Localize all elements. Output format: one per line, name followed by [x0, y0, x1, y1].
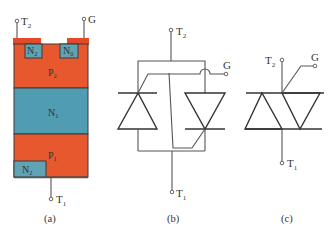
- t2-terminal: [15, 19, 19, 23]
- g-label: G: [88, 13, 96, 25]
- panel-b-equivalent: T2 G T1 (b): [118, 25, 231, 225]
- reverse-triangle: [282, 93, 320, 129]
- right-thyristor-triangle: [185, 93, 225, 129]
- gate-cross-wire: [169, 73, 205, 148]
- forward-triangle: [245, 93, 282, 129]
- t1-terminal: [280, 161, 284, 165]
- gate-wire: [138, 69, 224, 93]
- panel-c-symbol: T2 G T1 (c): [245, 51, 324, 225]
- caption-b: (b): [167, 213, 180, 225]
- panel-a-structure: T2 G N2 N0 P2 N1 P1 N2 T1 (a): [13, 13, 96, 225]
- caption-c: (c): [281, 213, 293, 225]
- t2-label: T2: [265, 54, 276, 69]
- caption-a: (a): [44, 213, 56, 225]
- t2-label: T2: [176, 25, 187, 40]
- g-label: G: [311, 51, 319, 63]
- t1-label: T1: [56, 193, 67, 208]
- t2-terminal: [169, 28, 173, 32]
- g-terminal: [224, 72, 228, 76]
- t1-label: T1: [176, 187, 187, 202]
- gate-wire: [282, 66, 313, 93]
- triac-figure: T2 G N2 N0 P2 N1 P1 N2 T1 (a) T2 G T1: [0, 0, 329, 239]
- g-terminal: [313, 64, 317, 68]
- left-thyristor-triangle: [118, 93, 157, 129]
- t1-terminal: [170, 190, 174, 194]
- top-rail: [138, 61, 205, 93]
- t1-label: T1: [287, 157, 298, 172]
- t2-terminal: [280, 58, 284, 62]
- g-label: G: [223, 59, 231, 71]
- t1-terminal: [49, 197, 53, 201]
- g-terminal: [82, 17, 86, 21]
- t2-label: T2: [21, 15, 32, 30]
